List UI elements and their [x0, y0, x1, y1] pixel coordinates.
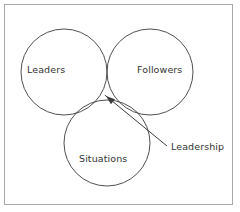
label-situations: Situations [79, 153, 127, 164]
venn-diagram: Leaders Followers Situations Leadership [0, 0, 240, 212]
label-followers: Followers [137, 64, 182, 75]
circle-situations [64, 100, 150, 186]
venn-svg [0, 0, 240, 212]
label-leaders: Leaders [27, 64, 65, 75]
label-leadership: Leadership [171, 141, 224, 152]
leadership-pointer-line [105, 95, 167, 146]
